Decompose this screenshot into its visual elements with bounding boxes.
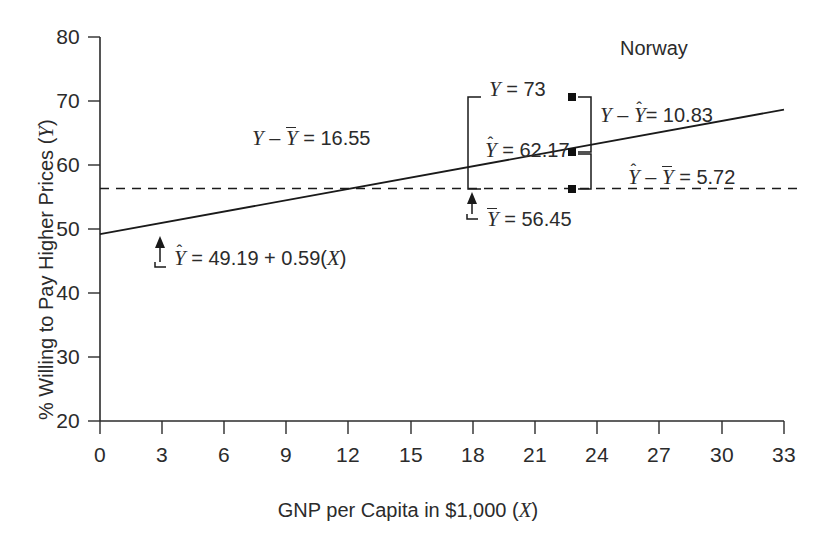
total-deviation-lhs-b: Y <box>286 128 298 149</box>
unexplained-deviation-lhs-b: ˆY <box>634 105 646 126</box>
hat-accent-icon: ˆ <box>488 135 493 151</box>
total-deviation-equals: = 16.55 <box>298 127 371 149</box>
point-label-norway: Norway <box>620 38 688 58</box>
regression-equation-close: ) <box>340 247 347 269</box>
hat-accent-icon: ˆ <box>631 162 636 178</box>
overbar-accent-icon <box>286 127 295 129</box>
hat-accent-icon: ˆ <box>177 243 182 259</box>
y-axis-title-text: % Willing to Pay Higher Prices ( <box>35 138 57 420</box>
explained-deviation-lhs-b: Y <box>662 167 674 188</box>
predicted-variable: ˆY <box>485 140 497 161</box>
y-axis-title-close: ) <box>35 119 57 126</box>
x-tick-label-27: 27 <box>647 443 671 467</box>
x-tick-label-30: 30 <box>710 443 734 467</box>
regression-equation-xvar: X <box>327 246 340 270</box>
x-tick-label-18: 18 <box>461 443 485 467</box>
regression-deviation-chart: 80 70 60 50 40 30 20 0 3 6 9 12 15 18 21… <box>0 0 817 541</box>
unexplained-deviation-equals: = 10.83 <box>646 104 713 126</box>
annotation-regression-equation: ˆY = 49.19 + 0.59(X) <box>174 248 346 269</box>
x-tick-label-33: 33 <box>772 443 796 467</box>
annotation-mean-value: Y = 56.45 <box>487 209 572 230</box>
x-axis-title-close: ) <box>532 499 539 521</box>
annotation-total-deviation: Y – Y = 16.55 <box>252 128 370 149</box>
explained-deviation-minus: – <box>640 166 662 188</box>
x-tick-label-24: 24 <box>585 443 609 467</box>
mean-variable: Y <box>487 209 499 230</box>
mean-equals: = 56.45 <box>499 208 572 230</box>
annotation-predicted-value: ˆY = 62.17 <box>485 140 570 161</box>
explained-deviation-lhs-a: ˆY <box>628 167 640 188</box>
x-axis-title-variable: X <box>519 498 532 522</box>
hat-accent-icon: ˆ <box>637 100 642 116</box>
pointer-regression-equation <box>155 245 166 267</box>
y-tick-label-80: 80 <box>36 25 80 49</box>
marker-mean-y <box>568 185 576 193</box>
bracket-total-deviation <box>468 97 481 189</box>
x-tick-label-15: 15 <box>399 443 423 467</box>
explained-deviation-equals: = 5.72 <box>674 166 736 188</box>
marker-observed-y <box>568 93 576 101</box>
mean-variable-letter: Y <box>487 207 499 231</box>
explained-deviation-lhs-b-letter: Y <box>662 165 674 189</box>
x-tick-label-3: 3 <box>156 443 168 467</box>
x-tick-label-6: 6 <box>218 443 230 467</box>
total-deviation-lhs-a: Y <box>252 126 264 150</box>
annotation-observed-value: Y = 73 <box>489 79 546 100</box>
x-tick-label-0: 0 <box>94 443 106 467</box>
total-deviation-lhs-b-letter: Y <box>286 126 298 150</box>
predicted-equals: = 62.17 <box>497 139 570 161</box>
overbar-accent-icon <box>662 166 671 168</box>
annotation-unexplained-deviation: Y – ˆY= 10.83 <box>600 105 713 126</box>
observed-equals: = 73 <box>501 78 546 100</box>
x-axis-title-text: GNP per Capita in $1,000 ( <box>278 499 519 521</box>
pointer-regression-equation-head <box>155 236 165 248</box>
x-tick-label-9: 9 <box>280 443 292 467</box>
pointer-mean-label-head <box>467 192 477 204</box>
regression-equation-variable: ˆY <box>174 248 186 269</box>
bracket-explained-deviation <box>578 154 591 189</box>
unexplained-deviation-lhs-a: Y <box>600 103 612 127</box>
x-tick-label-21: 21 <box>523 443 547 467</box>
x-axis-title: GNP per Capita in $1,000 (X) <box>278 498 538 523</box>
bracket-unexplained-deviation <box>578 97 591 152</box>
observed-variable: Y <box>489 77 501 101</box>
y-axis-title-variable: Y <box>34 126 58 138</box>
unexplained-deviation-minus: – <box>612 104 634 126</box>
regression-equation-body: = 49.19 + 0.59( <box>186 247 327 269</box>
y-tick-label-70: 70 <box>36 89 80 113</box>
y-axis-title: % Willing to Pay Higher Prices (Y) <box>34 119 59 420</box>
x-tick-label-12: 12 <box>336 443 360 467</box>
annotation-explained-deviation: ˆY – Y = 5.72 <box>628 167 735 188</box>
overbar-accent-icon <box>487 208 496 210</box>
total-deviation-minus: – <box>264 127 286 149</box>
